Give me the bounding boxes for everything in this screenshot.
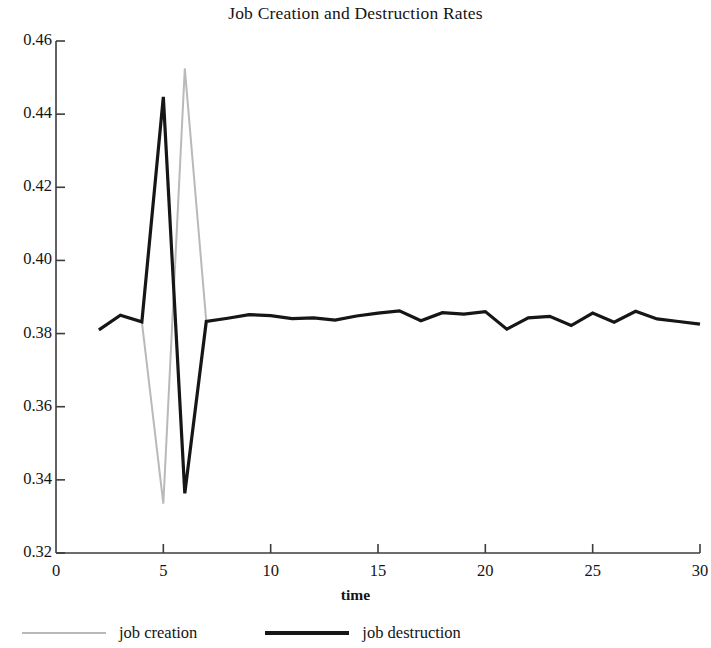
series-line-job-destruction xyxy=(99,97,700,493)
x-axis-tick-labels: 051015202530 xyxy=(0,561,711,587)
x-tick-label: 15 xyxy=(358,561,398,581)
x-tick-label: 20 xyxy=(465,561,505,581)
x-axis-tick-marks xyxy=(163,544,700,553)
legend-swatch-job-creation-icon xyxy=(22,632,106,634)
y-axis-tick-labels: 0.320.340.360.380.400.420.440.46 xyxy=(0,0,52,600)
legend-item-job-creation: job creation xyxy=(22,623,197,643)
x-tick-label: 10 xyxy=(251,561,291,581)
legend-label-job-destruction: job destruction xyxy=(362,623,461,643)
y-tick-label: 0.42 xyxy=(6,176,52,196)
legend-item-job-destruction: job destruction xyxy=(265,623,461,643)
x-tick-label: 30 xyxy=(680,561,711,581)
y-tick-label: 0.32 xyxy=(6,542,52,562)
y-axis-tick-marks xyxy=(56,41,65,553)
y-tick-label: 0.38 xyxy=(6,323,52,343)
y-tick-label: 0.36 xyxy=(6,396,52,416)
x-tick-label: 5 xyxy=(143,561,183,581)
y-tick-label: 0.44 xyxy=(6,103,52,123)
y-tick-label: 0.46 xyxy=(6,30,52,50)
y-tick-label: 0.34 xyxy=(6,469,52,489)
x-axis-label: time xyxy=(0,586,711,604)
x-tick-label: 25 xyxy=(573,561,613,581)
legend-swatch-job-destruction-icon xyxy=(265,631,349,635)
legend-label-job-creation: job creation xyxy=(119,623,197,643)
x-tick-label: 0 xyxy=(36,561,76,581)
chart-legend: job creation job destruction xyxy=(0,618,711,648)
y-tick-label: 0.40 xyxy=(6,249,52,269)
plot-area xyxy=(0,0,711,600)
axis-lines xyxy=(56,41,700,553)
chart-figure: Job Creation and Destruction Rates 0.320… xyxy=(0,0,711,648)
series-line-job-creation xyxy=(99,68,700,503)
